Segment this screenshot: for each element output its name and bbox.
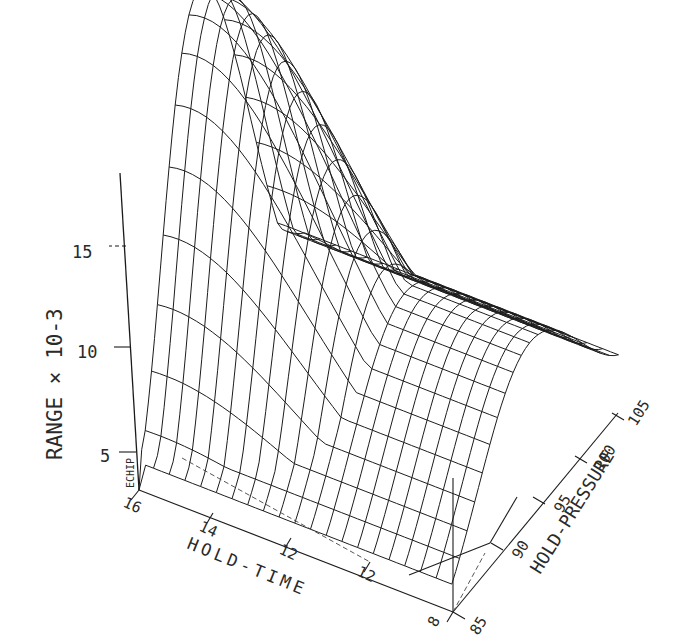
base-box — [139, 413, 618, 612]
z-axis: 15 10 5 RANGE × 10-3 ECHIP — [43, 173, 139, 490]
z-tick-label: 15 — [72, 242, 92, 262]
z-axis-title: RANGE × 10-3 — [43, 308, 67, 460]
y-axis: 85 90 95 100 105 HOLD-PRESSURE — [453, 397, 654, 639]
surface-wireframe — [139, 0, 619, 584]
y-tick-label: 85 — [466, 613, 491, 638]
z-tick-label: 10 — [77, 342, 97, 362]
surface-plot: 15 10 5 RANGE × 10-3 ECHIP 16 14 12 12 8… — [0, 0, 693, 643]
x-tick-label: 8 — [424, 613, 444, 630]
x-tick-label: 12 — [276, 540, 300, 564]
y-tick-label: 105 — [624, 397, 654, 430]
echip-watermark: ECHIP — [125, 458, 136, 488]
z-tick-label: 5 — [100, 446, 110, 466]
y-axis-title: HOLD-PRESSURE — [526, 447, 618, 578]
x-tick-label: 16 — [120, 493, 144, 517]
x-tick-label: 12 — [354, 562, 378, 586]
